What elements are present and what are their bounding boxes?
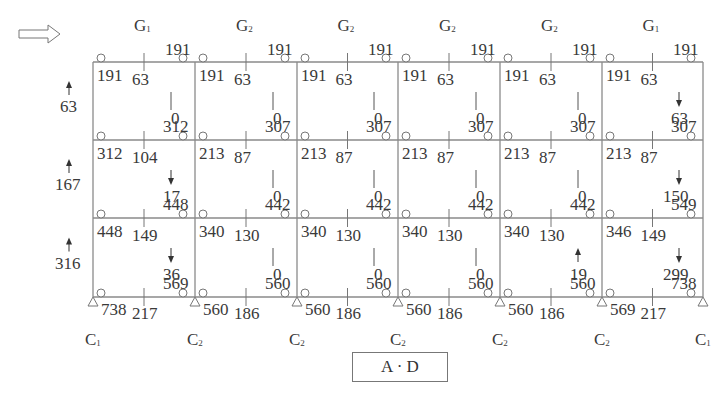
beam-end-moment-left: 312: [97, 145, 123, 162]
plastic-hinge-icon: [504, 132, 512, 140]
beam-midspan-moment: 130: [437, 227, 463, 244]
beam-label: G1: [134, 17, 151, 37]
base-midspan-moment: 186: [539, 305, 565, 322]
plastic-hinge-icon: [402, 132, 410, 140]
pin-support-icon: [292, 297, 302, 306]
plastic-hinge-icon: [504, 210, 512, 218]
arrow-head-icon: [66, 81, 72, 88]
story-shear-label: 63: [60, 98, 77, 115]
base-moment-left: 738: [101, 301, 127, 318]
plastic-hinge-icon: [199, 54, 207, 62]
beam-moment-label: 191: [673, 41, 699, 58]
beam-end-moment-left: 213: [606, 145, 632, 162]
base-midspan-moment: 186: [234, 305, 260, 322]
column-label: C1: [85, 331, 101, 351]
beam-moment-label: 191: [267, 41, 293, 58]
beam-midspan-moment: 130: [234, 227, 260, 244]
beam-end-moment-right: 549: [671, 196, 697, 213]
plastic-hinge-icon: [199, 210, 207, 218]
plastic-hinge-icon: [606, 289, 614, 297]
arrow-head-icon: [676, 256, 682, 263]
beam-end-moment-right: 312: [163, 118, 189, 135]
beam-moment-label: 191: [470, 41, 496, 58]
story-shear-label: 167: [55, 176, 81, 193]
beam-moment-label: 191: [572, 41, 598, 58]
plastic-hinge-icon: [606, 132, 614, 140]
beam-end-moment-right: 442: [468, 196, 494, 213]
beam-end-moment-left: 191: [504, 67, 530, 84]
diagram-title-box: A · D: [352, 352, 448, 382]
base-midspan-moment: 217: [641, 305, 667, 322]
beam-label: G2: [338, 17, 355, 37]
beam-label: G2: [236, 17, 253, 37]
arrow-head-icon: [676, 178, 682, 185]
plastic-hinge-icon: [97, 54, 105, 62]
beam-midspan-moment: 130: [336, 227, 362, 244]
diagram-title: A · D: [381, 357, 419, 377]
beam-end-moment-left: 191: [402, 67, 428, 84]
beam-label: G2: [541, 17, 558, 37]
beam-midspan-moment: 63: [336, 71, 353, 88]
beam-midspan-moment: 149: [641, 227, 667, 244]
beam-end-moment-left: 191: [301, 67, 327, 84]
pin-support-icon: [88, 297, 98, 306]
arrow-head-icon: [168, 178, 174, 185]
beam-end-moment-right: 738: [671, 275, 697, 292]
beam-end-moment-left: 448: [97, 223, 123, 240]
beam-midspan-moment: 63: [437, 71, 454, 88]
beam-moment-label: 191: [165, 41, 191, 58]
beam-midspan-moment: 63: [132, 71, 149, 88]
beam-label: G2: [439, 17, 456, 37]
beam-end-moment-right: 560: [468, 275, 494, 292]
plastic-hinge-icon: [199, 132, 207, 140]
beam-end-moment-right: 560: [265, 275, 291, 292]
column-label: C1: [695, 331, 711, 351]
frame-diagram: [0, 0, 725, 398]
beam-end-moment-left: 213: [504, 145, 530, 162]
column-label: C2: [594, 331, 610, 351]
beam-end-moment-left: 213: [301, 145, 327, 162]
plastic-hinge-icon: [606, 210, 614, 218]
beam-end-moment-left: 340: [199, 223, 225, 240]
beam-midspan-moment: 87: [641, 149, 658, 166]
beam-midspan-moment: 87: [539, 149, 556, 166]
beam-end-moment-right: 307: [671, 118, 697, 135]
beam-end-moment-left: 213: [199, 145, 225, 162]
beam-end-moment-right: 442: [366, 196, 392, 213]
pin-support-icon: [597, 297, 607, 306]
beam-end-moment-left: 340: [402, 223, 428, 240]
arrow-head-icon: [66, 159, 72, 166]
beam-label: G1: [643, 17, 660, 37]
arrow-head-icon: [676, 100, 682, 107]
plastic-hinge-icon: [504, 289, 512, 297]
arrow-head-icon: [575, 248, 581, 255]
beam-end-moment-left: 340: [301, 223, 327, 240]
beam-midspan-moment: 63: [641, 71, 658, 88]
beam-moment-label: 191: [368, 41, 394, 58]
beam-midspan-moment: 63: [539, 71, 556, 88]
beam-end-moment-right: 569: [163, 275, 189, 292]
beam-midspan-moment: 130: [539, 227, 565, 244]
beam-midspan-moment: 87: [336, 149, 353, 166]
arrow-head-icon: [168, 256, 174, 263]
beam-end-moment-right: 442: [265, 196, 291, 213]
column-label: C2: [187, 331, 203, 351]
plastic-hinge-icon: [402, 210, 410, 218]
base-midspan-moment: 217: [132, 305, 158, 322]
pin-support-icon: [698, 297, 708, 306]
beam-end-moment-left: 213: [402, 145, 428, 162]
plastic-hinge-icon: [301, 132, 309, 140]
beam-end-moment-right: 448: [163, 196, 189, 213]
beam-midspan-moment: 87: [234, 149, 251, 166]
pin-support-icon: [495, 297, 505, 306]
beam-end-moment-left: 191: [199, 67, 225, 84]
base-moment-left: 560: [406, 301, 432, 318]
base-moment-left: 569: [610, 301, 636, 318]
beam-midspan-moment: 149: [132, 227, 158, 244]
beam-end-moment-right: 560: [570, 275, 596, 292]
pin-support-icon: [393, 297, 403, 306]
load-direction-arrow-icon: [19, 25, 60, 43]
plastic-hinge-icon: [97, 289, 105, 297]
beam-end-moment-right: 307: [366, 118, 392, 135]
beam-midspan-moment: 63: [234, 71, 251, 88]
